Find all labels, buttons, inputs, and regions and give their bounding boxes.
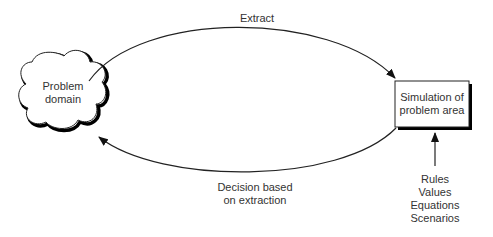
inputs-list: Rules Values Equations Scenarios — [400, 173, 470, 225]
extract-arrow — [89, 27, 395, 81]
problem-domain-label: Problem domain — [33, 80, 93, 106]
decision-line1: Decision based — [205, 181, 305, 194]
problem-domain-line1: Problem — [33, 80, 93, 93]
simulation-line1: Simulation of — [395, 91, 469, 104]
input-equations: Equations — [400, 199, 470, 212]
problem-domain-line2: domain — [33, 93, 93, 106]
input-values: Values — [400, 186, 470, 199]
simulation-line2: problem area — [395, 104, 469, 117]
decision-line2: on extraction — [205, 194, 305, 207]
decision-arrow — [99, 128, 396, 172]
input-scenarios: Scenarios — [400, 212, 470, 225]
extract-label: Extract — [222, 12, 292, 25]
simulation-label: Simulation of problem area — [395, 91, 469, 117]
input-rules: Rules — [400, 173, 470, 186]
decision-label: Decision based on extraction — [205, 181, 305, 207]
